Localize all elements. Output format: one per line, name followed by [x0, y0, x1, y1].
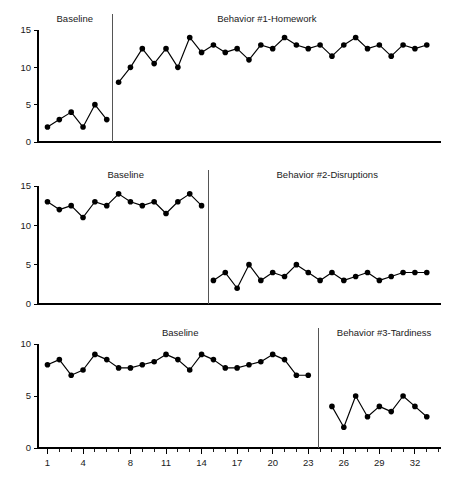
data-point — [116, 79, 122, 85]
data-point — [92, 352, 98, 358]
data-point — [424, 414, 430, 420]
data-point — [282, 274, 288, 280]
phase-title: Behavior #1-Homework — [217, 13, 317, 24]
data-point — [104, 357, 110, 363]
data-point — [270, 270, 276, 276]
panel-1-y-tick-label: 10 — [20, 62, 31, 73]
x-tick-label: 8 — [128, 457, 133, 468]
phase-title: Baseline — [162, 327, 198, 338]
data-point — [45, 124, 51, 130]
data-point — [329, 404, 335, 410]
data-point — [187, 191, 193, 197]
data-point — [68, 203, 74, 209]
x-tick-label: 20 — [267, 457, 278, 468]
x-tick-label: 32 — [410, 457, 421, 468]
data-point — [377, 404, 383, 410]
panel-3-y-tick-label: 5 — [26, 390, 31, 401]
x-tick-label: 11 — [161, 457, 171, 468]
data-point — [128, 365, 134, 371]
data-point — [140, 46, 146, 52]
panel-1-y-tick-label: 5 — [26, 99, 31, 110]
data-point — [400, 393, 406, 399]
panel-2-y-tick-label: 10 — [20, 220, 31, 231]
data-point — [163, 352, 169, 358]
panel-1: 051015BaselineBehavior #1-Homework — [0, 4, 451, 156]
data-point — [222, 270, 228, 276]
data-point — [175, 65, 181, 71]
data-point — [199, 50, 205, 56]
data-point — [412, 404, 418, 410]
data-point — [187, 367, 193, 373]
panel-2-y-tick-label: 5 — [26, 259, 31, 270]
data-point — [68, 372, 74, 378]
data-point — [353, 35, 359, 41]
data-point — [365, 46, 371, 52]
data-point — [199, 352, 205, 358]
x-tick-label: 4 — [80, 457, 85, 468]
data-point — [57, 357, 63, 363]
series-line — [332, 396, 427, 427]
data-point — [377, 278, 383, 284]
data-point — [294, 42, 300, 48]
data-point — [317, 278, 323, 284]
data-point — [341, 278, 347, 284]
data-point — [128, 65, 134, 71]
data-point — [128, 199, 134, 205]
data-point — [424, 270, 430, 276]
phase-title: Behavior #2-Disruptions — [277, 169, 379, 180]
x-tick-label: 23 — [303, 457, 314, 468]
panel-2: 051015BaselineBehavior #2-Disruptions — [0, 160, 451, 318]
data-point — [388, 53, 394, 59]
data-point — [80, 215, 86, 221]
data-point — [400, 270, 406, 276]
data-point — [282, 35, 288, 41]
data-point — [282, 357, 288, 363]
data-point — [151, 61, 157, 67]
panel-3-y-tick-label: 0 — [26, 442, 31, 453]
x-tick-label: 26 — [339, 457, 350, 468]
data-point — [353, 393, 359, 399]
panel-1-y-tick-label: 0 — [26, 136, 31, 147]
data-point — [211, 42, 217, 48]
x-tick-label: 17 — [232, 457, 243, 468]
data-point — [329, 270, 335, 276]
data-point — [163, 211, 169, 217]
data-point — [116, 191, 122, 197]
data-point — [68, 109, 74, 115]
data-point — [222, 365, 228, 371]
data-point — [80, 124, 86, 130]
data-point — [388, 274, 394, 280]
phase-title: Baseline — [107, 169, 143, 180]
data-point — [92, 199, 98, 205]
data-point — [388, 409, 394, 415]
data-point — [45, 362, 51, 368]
data-point — [80, 367, 86, 373]
data-point — [246, 362, 252, 368]
data-point — [104, 203, 110, 209]
data-point — [175, 199, 181, 205]
data-point — [234, 46, 240, 52]
data-point — [45, 199, 51, 205]
data-point — [151, 359, 157, 365]
panel-3-y-tick-label: 10 — [20, 338, 31, 349]
panel-2-y-tick-label: 0 — [26, 298, 31, 309]
data-point — [305, 46, 311, 52]
data-point — [92, 102, 98, 108]
multiple-baseline-chart: 051015BaselineBehavior #1-Homework051015… — [0, 0, 451, 493]
data-point — [57, 117, 63, 123]
data-point — [270, 352, 276, 358]
panel-2-plot: 051015BaselineBehavior #2-Disruptions — [0, 160, 451, 318]
data-point — [104, 117, 110, 123]
series-line — [47, 105, 106, 127]
data-point — [258, 278, 264, 284]
data-point — [211, 357, 217, 363]
panel-1-plot: 051015BaselineBehavior #1-Homework — [0, 4, 451, 156]
data-point — [341, 42, 347, 48]
x-tick-label: 1 — [45, 457, 50, 468]
data-point — [329, 53, 335, 59]
data-point — [246, 57, 252, 63]
data-point — [151, 199, 157, 205]
data-point — [412, 270, 418, 276]
panel-2-y-tick-label: 15 — [20, 180, 31, 191]
data-point — [211, 278, 217, 284]
